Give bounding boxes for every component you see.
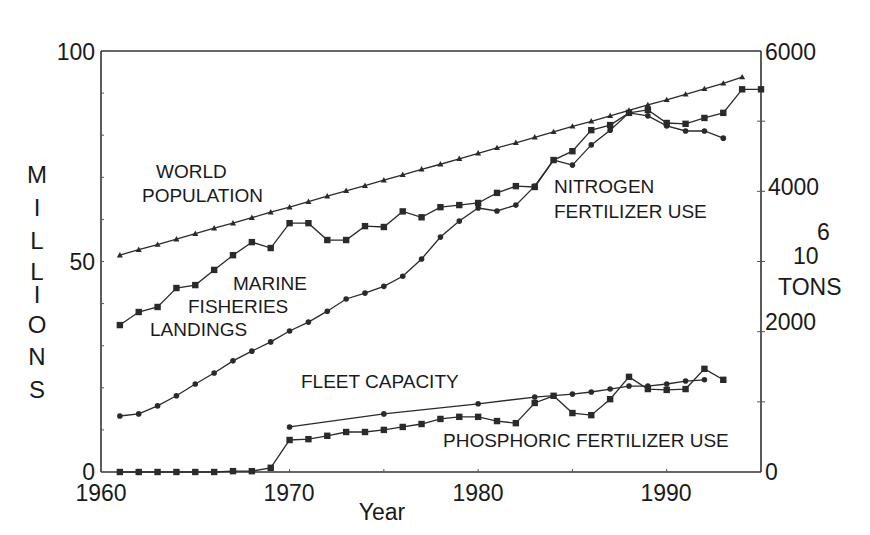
- marker-circle: [211, 370, 217, 376]
- axis-ticks: [101, 93, 765, 472]
- y-left-title-letter: S: [29, 376, 45, 403]
- marker-circle: [456, 218, 462, 224]
- marker-square: [664, 387, 670, 393]
- marker-square: [192, 282, 198, 288]
- left-axis-ticks: 100 50 0: [57, 39, 95, 485]
- y-left-tick-100: 100: [57, 39, 95, 65]
- marker-square: [400, 424, 406, 430]
- marker-circle: [324, 308, 330, 314]
- marker-circle: [645, 113, 651, 119]
- marker-square: [701, 366, 707, 372]
- x-tick-1970: 1970: [263, 480, 314, 506]
- marker-square: [362, 223, 368, 229]
- chart: 100 50 0 6000 4000 2000 0 1960 1970 1980…: [0, 0, 870, 535]
- marker-square: [569, 410, 575, 416]
- marker-square: [475, 414, 481, 420]
- marker-square: [249, 239, 255, 245]
- label-fleet: FLEET CAPACITY: [301, 371, 459, 392]
- marker-square: [739, 86, 745, 92]
- marker-square: [626, 374, 632, 380]
- marker-circle: [192, 381, 198, 387]
- marker-circle: [683, 128, 689, 134]
- series-layer: [117, 74, 765, 475]
- right-unit-label: TONS: [778, 274, 841, 300]
- marker-circle: [664, 381, 670, 387]
- marker-square: [117, 322, 123, 328]
- marker-square: [720, 377, 726, 383]
- marker-square: [268, 245, 274, 251]
- marker-circle: [513, 202, 519, 208]
- marker-circle: [475, 205, 481, 211]
- marker-square: [230, 468, 236, 474]
- marker-circle: [306, 319, 312, 325]
- label-nitrogen-line1: NITROGEN: [554, 176, 654, 197]
- marker-square: [286, 220, 292, 226]
- marker-square: [645, 107, 651, 113]
- marker-square: [418, 421, 424, 427]
- marker-square: [230, 252, 236, 258]
- marker-square: [513, 183, 519, 189]
- marker-circle: [268, 339, 274, 345]
- marker-square: [682, 386, 688, 392]
- x-tick-1960: 1960: [75, 480, 126, 506]
- marker-circle: [381, 284, 387, 290]
- marker-square: [758, 86, 764, 92]
- y-left-title-letter: N: [28, 343, 45, 370]
- marker-circle: [249, 348, 255, 354]
- marker-square: [173, 469, 179, 475]
- marker-square: [211, 267, 217, 273]
- marker-circle: [588, 142, 594, 148]
- marker-square: [588, 412, 594, 418]
- marker-square: [154, 304, 160, 310]
- y-left-title-letter: L: [30, 227, 43, 254]
- right-unit-exponent: 6: [817, 219, 830, 245]
- y-right-axis-title: 6 10 TONS: [778, 219, 841, 300]
- x-axis-title: Year: [359, 499, 406, 525]
- marker-circle: [230, 358, 236, 364]
- label-world-line2: POPULATION: [142, 185, 263, 206]
- marker-square: [494, 190, 500, 196]
- marker-square: [343, 429, 349, 435]
- marker-circle: [570, 391, 576, 397]
- marker-circle: [702, 128, 708, 134]
- marker-square: [381, 224, 387, 230]
- marker-circle: [626, 383, 632, 389]
- marker-square: [550, 393, 556, 399]
- marker-square: [192, 469, 198, 475]
- marker-circle: [588, 389, 594, 395]
- marker-square: [362, 429, 368, 435]
- marker-circle: [287, 328, 293, 334]
- marker-square: [607, 396, 613, 402]
- marker-circle: [343, 296, 349, 302]
- marker-square: [437, 204, 443, 210]
- label-phosphoric: PHOSPHORIC FERTILIZER USE: [443, 430, 729, 451]
- y-right-tick-6000: 6000: [765, 39, 816, 65]
- marker-square: [286, 437, 292, 443]
- marker-square: [136, 309, 142, 315]
- label-marine-line1: MARINE: [233, 273, 307, 294]
- marker-square: [136, 469, 142, 475]
- x-tick-1990: 1990: [640, 480, 691, 506]
- y-left-title-letter: I: [34, 281, 41, 308]
- marker-circle: [400, 273, 406, 279]
- marker-circle: [551, 157, 557, 163]
- marker-square: [400, 208, 406, 214]
- marker-triangle: [739, 74, 745, 79]
- marker-square: [173, 285, 179, 291]
- right-unit-base: 10: [793, 243, 819, 269]
- marker-circle: [607, 127, 613, 133]
- y-right-tick-2000: 2000: [765, 309, 816, 335]
- series-labels: WORLD POPULATION MARINE FISHERIES LANDIN…: [142, 161, 729, 451]
- y-left-title-letter: I: [34, 194, 41, 221]
- x-tick-1980: 1980: [452, 480, 503, 506]
- y-left-axis-title: MILLIONS: [27, 161, 47, 403]
- marker-square: [381, 427, 387, 433]
- marker-circle: [362, 290, 368, 296]
- marker-square: [569, 148, 575, 154]
- marker-square: [456, 202, 462, 208]
- marker-circle: [381, 411, 387, 417]
- marker-circle: [174, 393, 180, 399]
- marker-circle: [570, 162, 576, 168]
- marker-square: [720, 110, 726, 116]
- marker-circle: [419, 256, 425, 262]
